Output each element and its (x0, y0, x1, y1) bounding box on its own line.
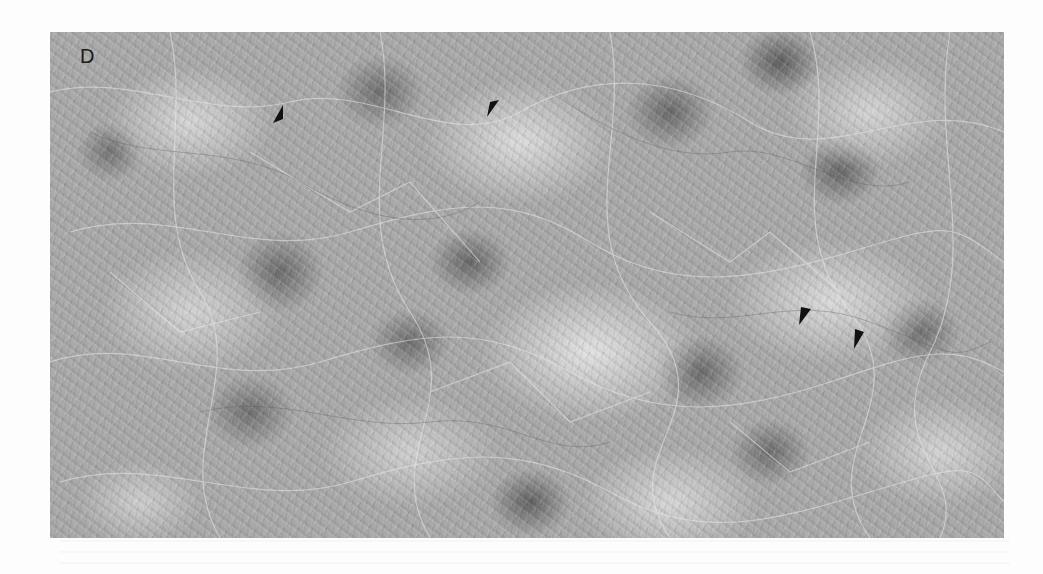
arrowhead-icon (486, 98, 500, 118)
panel-label: D (80, 45, 94, 68)
micrograph-panel: D (50, 32, 1004, 538)
arrowhead-icon (271, 105, 285, 125)
filament-network (50, 32, 1004, 538)
caption-bleed-through (60, 540, 1010, 570)
arrowhead-icon (851, 329, 865, 349)
arrowhead-icon (797, 306, 811, 326)
